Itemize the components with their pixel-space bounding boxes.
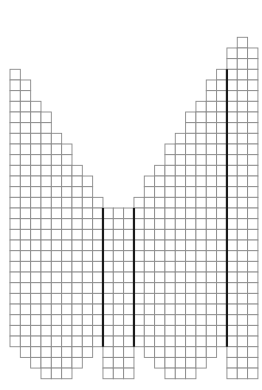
grid-cell: [155, 240, 165, 251]
grid-cell: [155, 251, 165, 262]
grid-cell: [72, 315, 82, 326]
grid-cell: [113, 304, 123, 315]
grid-cell: [248, 368, 258, 379]
grid-cell: [144, 229, 154, 240]
grid-cell: [237, 283, 247, 294]
grid-cell: [144, 251, 154, 262]
grid-cell: [196, 219, 206, 230]
grid-cell: [113, 315, 123, 326]
grid-cell: [248, 123, 258, 134]
grid-cell: [186, 219, 196, 230]
grid-cell: [248, 133, 258, 144]
grid-cell: [248, 144, 258, 155]
grid-cell: [206, 123, 216, 134]
grid-cell: [20, 272, 30, 283]
grid-cell: [72, 261, 82, 272]
grid-cell: [196, 112, 206, 123]
grid-cell: [196, 293, 206, 304]
grid-cell: [41, 304, 51, 315]
grid-cell: [175, 208, 185, 219]
grid-cell: [155, 261, 165, 272]
grid-cell: [72, 240, 82, 251]
grid-cell: [113, 251, 123, 262]
grid-cell: [51, 325, 61, 336]
grid-cell: [175, 347, 185, 358]
grid-cell: [144, 336, 154, 347]
grid-cell: [237, 48, 247, 59]
grid-cell: [248, 219, 258, 230]
grid-cell: [227, 229, 237, 240]
grid-cell: [144, 261, 154, 272]
grid-cell: [72, 304, 82, 315]
grid-cell: [10, 80, 20, 91]
grid-cell: [31, 240, 41, 251]
grid-cell: [175, 187, 185, 198]
grid-cell: [217, 187, 227, 198]
grid-cell: [113, 368, 123, 379]
grid-cell: [93, 240, 103, 251]
grid-cell: [41, 325, 51, 336]
grid-cell: [103, 368, 113, 379]
grid-cell: [206, 219, 216, 230]
grid-cell: [227, 48, 237, 59]
grid-cell: [227, 91, 237, 102]
grid-cell: [41, 368, 51, 379]
grid-cell: [20, 197, 30, 208]
grid-cell: [93, 219, 103, 230]
grid-cell: [31, 101, 41, 112]
grid-cell: [82, 251, 92, 262]
grid-cell: [10, 197, 20, 208]
grid-cell: [248, 315, 258, 326]
grid-cell: [237, 101, 247, 112]
grid-cell: [124, 325, 134, 336]
grid-cell: [10, 208, 20, 219]
grid-cell: [10, 304, 20, 315]
grid-cell: [155, 283, 165, 294]
grid-cell: [82, 293, 92, 304]
grid-cell: [227, 176, 237, 187]
grid-cell: [237, 165, 247, 176]
grid-cell: [72, 197, 82, 208]
grid-cell: [72, 357, 82, 368]
grid-cell: [124, 219, 134, 230]
grid-cell: [237, 261, 247, 272]
grid-cell: [62, 251, 72, 262]
grid-cell: [20, 123, 30, 134]
grid-cell: [186, 347, 196, 358]
grid-cell: [186, 357, 196, 368]
grid-cell: [10, 165, 20, 176]
grid-cell: [10, 112, 20, 123]
grid-cell: [51, 304, 61, 315]
grid-cell: [248, 101, 258, 112]
grid-cell: [227, 261, 237, 272]
grid-cell: [134, 219, 144, 230]
grid-cell: [217, 155, 227, 166]
grid-cell: [227, 368, 237, 379]
grid-cell: [237, 80, 247, 91]
grid-cell: [186, 165, 196, 176]
grid-cell: [113, 208, 123, 219]
grid-cell: [20, 144, 30, 155]
grid-cell: [93, 325, 103, 336]
grid-cell: [20, 101, 30, 112]
grid-cell: [51, 293, 61, 304]
grid-cell: [186, 283, 196, 294]
grid-cell: [237, 357, 247, 368]
grid-cell: [175, 283, 185, 294]
grid-cell: [41, 133, 51, 144]
grid-cell: [165, 357, 175, 368]
grid-cell: [186, 315, 196, 326]
grid-cell: [62, 315, 72, 326]
grid-cell: [10, 261, 20, 272]
grid-cell: [31, 336, 41, 347]
grid-cell: [31, 133, 41, 144]
grid-cell: [217, 165, 227, 176]
grid-cell: [41, 229, 51, 240]
grid-cell: [186, 187, 196, 198]
grid-cell: [20, 219, 30, 230]
grid-cell: [175, 133, 185, 144]
grid-cell: [93, 336, 103, 347]
grid-cell: [196, 357, 206, 368]
grid-cell: [113, 293, 123, 304]
grid-cell: [237, 123, 247, 134]
